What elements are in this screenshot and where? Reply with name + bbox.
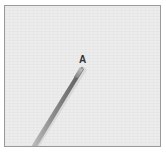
footer-strip: [0, 148, 166, 155]
point-a-marker: [81, 67, 84, 70]
rod-body: [29, 68, 84, 150]
rod-illustration: [0, 0, 166, 155]
point-a-label: A: [79, 55, 86, 65]
